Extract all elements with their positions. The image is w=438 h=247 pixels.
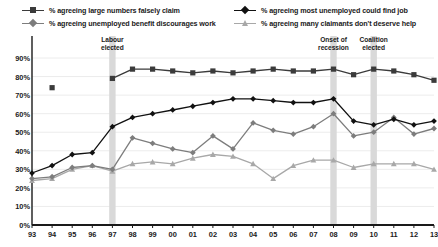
chart-plot-area: 0%10%20%30%40%50%60%70%80%90% 9394959697… xyxy=(0,34,438,247)
legend-item: % agreeing large numbers falsely claim xyxy=(22,6,180,15)
legend-item: % agreeing many claimants don't deserve … xyxy=(234,19,416,28)
annotation-line-1: Coalition xyxy=(346,36,402,44)
annotation-line-2: elected xyxy=(84,44,140,52)
legend-marker-square-icon xyxy=(22,6,44,15)
legend-marker-diamond-icon xyxy=(234,6,256,15)
legend-label: % agreeing many claimants don't deserve … xyxy=(261,19,416,28)
chart-legend: % agreeing large numbers falsely claim% … xyxy=(0,0,438,34)
legend-label: % agreeing unemployed benefit discourage… xyxy=(49,19,216,28)
chart-annotation-label: Labourelected xyxy=(84,36,140,51)
legend-label: % agreeing most unemployed could find jo… xyxy=(261,6,408,15)
legend-marker-diamond-icon xyxy=(22,19,44,28)
annotation-line-1: Labour xyxy=(84,36,140,44)
chart-annotations: LabourelectedOnset ofrecessionCoalitione… xyxy=(0,34,438,247)
chart-annotation-label: Coalitionelected xyxy=(346,36,402,51)
annotation-line-2: elected xyxy=(346,44,402,52)
legend-marker-triangle-icon xyxy=(234,19,256,28)
legend-label: % agreeing large numbers falsely claim xyxy=(49,6,180,15)
legend-item: % agreeing most unemployed could find jo… xyxy=(234,6,408,15)
legend-item: % agreeing unemployed benefit discourage… xyxy=(22,19,216,28)
chart-root: % agreeing large numbers falsely claim% … xyxy=(0,0,438,247)
